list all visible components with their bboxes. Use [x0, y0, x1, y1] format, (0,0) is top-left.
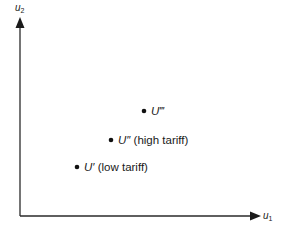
point-label-u-double-prime: U″ (high tariff): [118, 134, 188, 146]
point-dot-u-double-prime: [109, 138, 114, 143]
x-axis-arrow-icon: [250, 212, 261, 221]
y-axis-label: u2: [15, 2, 24, 17]
y-axis-label-sub: 2: [21, 7, 25, 14]
y-axis-arrow-icon: [16, 17, 25, 28]
x-axis-label: u1: [263, 210, 272, 225]
point-note: (high tariff): [134, 134, 189, 146]
point-dot-u-triple-prime: [142, 109, 147, 114]
point-label-u-triple-prime: U‴: [151, 105, 163, 117]
point-label-u-prime: U′ (low tariff): [84, 161, 148, 173]
point-symbol: U″: [118, 134, 130, 146]
utility-diagram-canvas: [0, 0, 286, 232]
point-symbol: U‴: [151, 105, 163, 117]
x-axis-label-sub: 1: [269, 215, 273, 222]
point-symbol: U′: [84, 161, 94, 173]
point-dot-u-prime: [75, 165, 80, 170]
point-note: (low tariff): [98, 161, 148, 173]
